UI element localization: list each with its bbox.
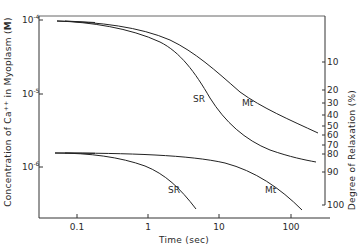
y-axis-right-label: Degree of Relaxation (%) (347, 90, 357, 210)
curve-mt-upper (57, 21, 318, 133)
x-tick-label: 10 (213, 222, 225, 232)
y-right-tick-label: 20 (327, 85, 339, 95)
curve-sr-lower (55, 153, 196, 209)
x-axis-label: Time (sec) (158, 235, 209, 245)
x-tick-label: 1 (145, 222, 151, 232)
y-axis-left-label: Concentration of Ca++ in Myoplasm (M) (2, 17, 13, 207)
x-tick-label: 100 (282, 222, 299, 232)
label-sr-lower: SR (168, 185, 180, 195)
curve-mt-lower (55, 153, 302, 210)
label-mt-upper: Mt (242, 98, 254, 108)
y-right-tick-label: 60 (327, 130, 339, 140)
y-right-tick-label: 90 (327, 167, 339, 177)
calcium-relaxation-chart: 0.1 1 10 100 Time (sec) 10-4 10-5 10-6 C… (0, 0, 364, 249)
y-right-tick-label: 10 (327, 57, 339, 67)
x-tick-label: 0.1 (70, 222, 84, 232)
y-right-tick-label: 40 (327, 110, 339, 120)
y-left-ticks: 10-4 10-5 10-6 (22, 13, 43, 172)
y-left-tick-label: 10-4 (22, 13, 40, 25)
y-left-tick-label: 10-6 (22, 160, 40, 172)
y-right-tick-label: 30 (327, 98, 339, 108)
label-mt-lower: Mt (265, 185, 277, 195)
y-right-tick-label: 80 (327, 149, 339, 159)
x-ticks: 0.1 1 10 100 (70, 214, 300, 232)
curves (55, 21, 318, 210)
y-right-tick-label: 100 (327, 200, 344, 210)
label-sr-upper: SR (193, 94, 205, 104)
curve-sr-upper (57, 21, 316, 162)
y-left-tick-label: 10-5 (22, 87, 40, 99)
